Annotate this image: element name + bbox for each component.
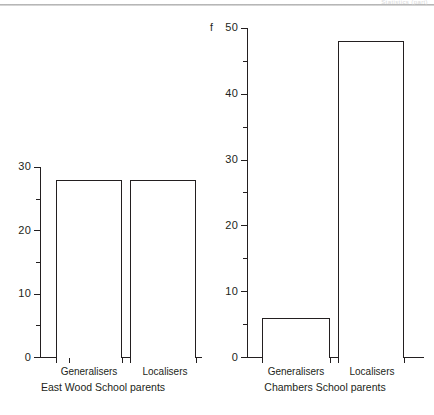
- x-tick-left-3: [122, 358, 123, 363]
- figure-page: Statistics (part) 30 20 10 0 Generaliser…: [0, 0, 434, 415]
- y-tick-label-30-left: 30: [0, 161, 31, 172]
- x-tick-left-1: [56, 358, 57, 363]
- y-tick-major-40-right: [241, 94, 248, 95]
- y-tick-major-30-left: [34, 167, 41, 168]
- category-label-chambers-localisers: Localisers: [328, 366, 416, 378]
- y-tick-label-0-right: 0: [206, 352, 238, 363]
- caption-chambers: Chambers School parents: [222, 381, 428, 394]
- y-tick-minor-35-right: [243, 127, 248, 128]
- y-tick-minor-5-right: [243, 324, 248, 325]
- y-tick-minor-25-left: [36, 199, 41, 200]
- y-tick-major-20-left: [34, 230, 41, 231]
- y-tick-label-50-right: 50: [206, 22, 238, 33]
- x-tick-right-1: [262, 358, 263, 363]
- y-tick-minor-15-left: [36, 262, 41, 263]
- chart-east-wood: 30 20 10 0 Generalisers Localisers East …: [0, 0, 206, 415]
- y-tick-label-0-left: 0: [0, 352, 31, 363]
- y-tick-label-30-right: 30: [206, 154, 238, 165]
- y-tick-major-50-right: [241, 28, 248, 29]
- y-tick-major-30-right: [241, 160, 248, 161]
- y-tick-major-20-right: [241, 225, 248, 226]
- chart-chambers: f 50 40 30 20 10 0 Genera: [200, 0, 434, 415]
- y-tick-major-0-right: [241, 357, 248, 358]
- y-tick-label-10-right: 10: [206, 286, 238, 297]
- y-tick-minor-45-right: [243, 61, 248, 62]
- x-tick-right-4: [404, 358, 405, 363]
- y-tick-label-10-left: 10: [0, 288, 31, 299]
- x-tick-left-4: [130, 358, 131, 363]
- bar-east-wood-generalisers: [56, 180, 122, 358]
- category-label-east-wood-localisers: Localisers: [120, 366, 210, 378]
- y-tick-label-40-right: 40: [206, 88, 238, 99]
- x-tick-left-2: [69, 358, 70, 363]
- y-tick-major-10-right: [241, 291, 248, 292]
- x-tick-right-2: [330, 358, 331, 363]
- y-tick-major-10-left: [34, 294, 41, 295]
- y-tick-minor-5-left: [36, 325, 41, 326]
- bar-chambers-generalisers: [262, 318, 330, 358]
- y-axis-line-right: [247, 28, 248, 358]
- x-tick-left-5: [196, 358, 197, 363]
- bar-chambers-localisers: [338, 41, 404, 358]
- y-tick-minor-15-right: [243, 258, 248, 259]
- y-tick-major-0-left: [34, 357, 41, 358]
- y-tick-label-20-left: 20: [0, 225, 31, 236]
- caption-east-wood: East Wood School parents: [0, 381, 206, 394]
- y-tick-minor-25-right: [243, 192, 248, 193]
- bar-east-wood-localisers: [130, 180, 196, 358]
- y-tick-label-20-right: 20: [206, 220, 238, 231]
- x-tick-right-3: [338, 358, 339, 363]
